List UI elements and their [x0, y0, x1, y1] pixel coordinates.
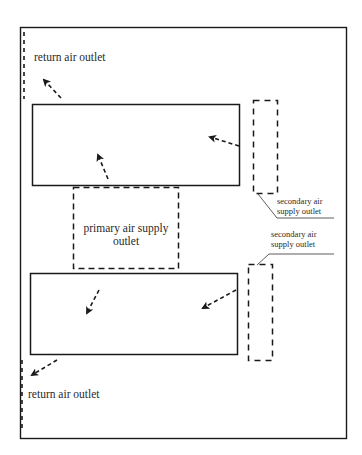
arrow-primary-to-lower-icon	[87, 290, 99, 313]
secondary-top-label-line2: supply outlet	[277, 207, 323, 217]
primary-air-supply-outlet-label: primary air supply outlet	[78, 222, 174, 248]
air-distribution-diagram: return air outlet primary air supply out…	[0, 0, 362, 455]
primary-label-line1: primary air supply	[78, 222, 174, 235]
secondary-bottom-label-line2: supply outlet	[271, 240, 317, 250]
arrow-to-return-bottom-icon	[32, 360, 57, 375]
primary-label-line2: outlet	[78, 235, 174, 248]
secondary-outlet-bottom-label: secondary air supply outlet	[271, 230, 317, 250]
arrow-primary-to-upper-icon	[98, 155, 108, 179]
upper-zone-box	[33, 105, 240, 186]
leader-line-secondary-bottom	[257, 254, 334, 265]
arrow-secondary-to-upper-icon	[210, 137, 239, 146]
secondary-outlet-bottom-box	[249, 265, 273, 361]
secondary-outlet-top-box	[254, 101, 278, 194]
lower-zone-box	[31, 274, 238, 355]
secondary-outlet-top-label: secondary air supply outlet	[277, 197, 323, 217]
return-air-outlet-bottom-label: return air outlet	[28, 388, 100, 401]
diagram-canvas	[0, 0, 362, 455]
arrow-to-return-top-icon	[44, 80, 61, 98]
arrow-secondary-to-lower-icon	[203, 290, 236, 308]
return-air-outlet-top-label: return air outlet	[34, 51, 106, 64]
